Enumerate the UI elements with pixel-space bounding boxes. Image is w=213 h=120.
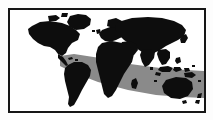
sri-lanka-landmass [150,67,153,70]
map-frame-border [8,8,206,113]
world-map-figure: World map with shaded latitudinal band [0,0,213,120]
map-plate [10,10,204,111]
world-map-graphic [10,10,204,111]
